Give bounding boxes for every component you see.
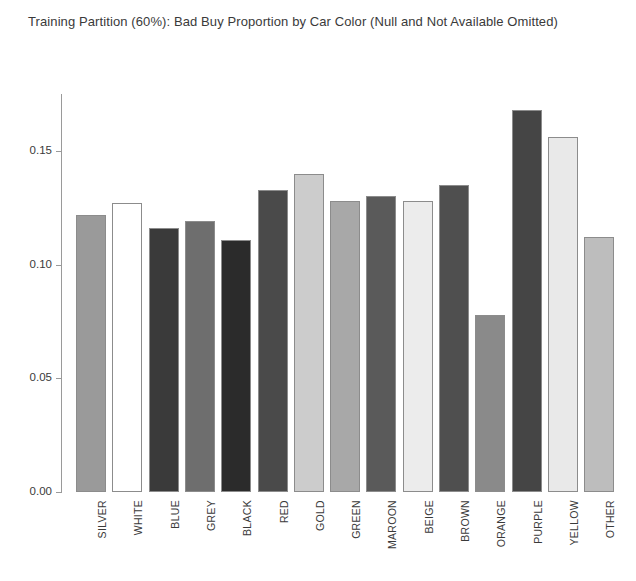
plot-area [62,94,636,492]
y-tick-mark [56,265,61,266]
bar [258,190,288,492]
x-tick-label: GREEN [350,500,362,539]
x-tick-label: OTHER [604,500,616,538]
bar [403,201,433,492]
x-tick-label: ORANGE [495,500,507,547]
y-tick-mark [56,378,61,379]
bar [221,240,251,492]
bar [112,203,142,492]
x-tick-label: BLUE [169,500,181,529]
chart-title: Training Partition (60%): Bad Buy Propor… [28,14,558,29]
y-tick-label: 0.00 [12,485,52,497]
bar [366,196,396,492]
x-tick-label: YELLOW [568,500,580,546]
bar [475,315,505,492]
bar [512,110,542,492]
x-tick-label: MAROON [386,500,398,549]
bar [294,174,324,492]
chart-figure: Training Partition (60%): Bad Buy Propor… [0,0,636,581]
x-tick-label: BLACK [241,500,253,536]
bar [330,201,360,492]
y-tick-label: 0.15 [12,144,52,156]
x-tick-label: BEIGE [423,500,435,534]
bar [185,221,215,492]
x-tick-label: RED [278,500,290,523]
y-tick-label: 0.10 [12,258,52,270]
x-tick-label: GREY [205,500,217,531]
y-tick-label: 0.05 [12,371,52,383]
y-tick-mark [56,151,61,152]
bar [548,137,578,492]
x-tick-label: PURPLE [532,500,544,544]
x-tick-label: GOLD [314,500,326,531]
bar [76,215,106,492]
bar [439,185,469,492]
bar [149,228,179,492]
x-tick-label: WHITE [132,500,144,535]
x-tick-label: SILVER [96,500,108,538]
bar [584,237,614,492]
y-tick-mark [56,492,61,493]
x-tick-label: BROWN [459,500,471,542]
